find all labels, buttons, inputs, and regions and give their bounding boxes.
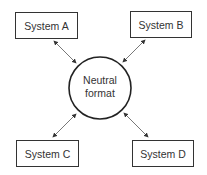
node-label: System C xyxy=(25,148,71,160)
neutral-format-label: Neutral format xyxy=(69,74,131,100)
center-label-line1: Neutral xyxy=(69,74,131,87)
node-label: System B xyxy=(139,19,184,31)
node-system-d: System D xyxy=(132,140,194,167)
node-system-c: System C xyxy=(16,140,79,167)
node-system-b: System B xyxy=(130,11,192,38)
node-system-a: System A xyxy=(15,12,78,39)
arrow-d-center xyxy=(124,113,148,137)
arrow-a-center xyxy=(54,41,76,63)
center-label-line2: format xyxy=(69,87,131,100)
arrow-c-center xyxy=(53,114,76,137)
arrow-b-center xyxy=(123,40,145,62)
node-label: System D xyxy=(140,148,186,160)
node-label: System A xyxy=(24,20,68,32)
